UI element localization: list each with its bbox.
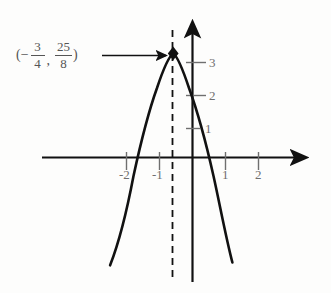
coordinate-comma: , xyxy=(47,54,51,70)
x-tick-label-2: 2 xyxy=(255,168,262,181)
x-coordinate-fraction: 3 4 xyxy=(31,40,45,70)
y-tick-label-1: 1 xyxy=(205,122,212,135)
negative-sign: − xyxy=(21,48,29,62)
parabola-figure: ( − 3 4 , 25 8 ) -2 -1 1 2 3 2 1 xyxy=(0,0,331,293)
y-denominator: 8 xyxy=(58,57,69,71)
parabola-curve xyxy=(110,54,232,266)
vertex-coordinate-label: ( − 3 4 , 25 8 ) xyxy=(16,40,78,70)
y-axis-ticks xyxy=(186,63,206,129)
y-coordinate-fraction: 25 8 xyxy=(55,40,72,70)
x-denominator: 4 xyxy=(32,57,43,71)
close-paren: ) xyxy=(73,48,78,62)
y-tick-label-3: 3 xyxy=(209,56,216,69)
x-tick-label-neg2: -2 xyxy=(119,168,130,181)
x-tick-label-1: 1 xyxy=(222,168,229,181)
x-numerator: 3 xyxy=(32,40,43,54)
y-numerator: 25 xyxy=(55,40,72,54)
y-tick-label-2: 2 xyxy=(209,89,216,102)
x-tick-label-neg1: -1 xyxy=(152,168,163,181)
